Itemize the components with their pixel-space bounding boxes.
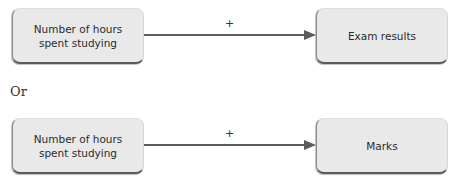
edge-polarity-label: + bbox=[225, 128, 234, 139]
target-node-label: Exam results bbox=[348, 29, 416, 43]
source-node-label: Number of hours spent studying bbox=[28, 22, 128, 50]
source-node-hours-studying-1: Number of hours spent studying bbox=[12, 8, 144, 64]
arrowhead-icon bbox=[304, 30, 316, 40]
target-node-marks: Marks bbox=[316, 118, 448, 174]
positive-link-arrow-2 bbox=[144, 144, 306, 146]
source-node-hours-studying-2: Number of hours spent studying bbox=[12, 118, 144, 174]
positive-link-arrow-1 bbox=[144, 34, 306, 36]
edge-polarity-label: + bbox=[225, 18, 234, 29]
or-separator: Or bbox=[10, 84, 27, 99]
arrowhead-icon bbox=[304, 140, 316, 150]
target-node-exam-results: Exam results bbox=[316, 8, 448, 64]
target-node-label: Marks bbox=[366, 139, 397, 153]
source-node-label: Number of hours spent studying bbox=[28, 132, 128, 160]
